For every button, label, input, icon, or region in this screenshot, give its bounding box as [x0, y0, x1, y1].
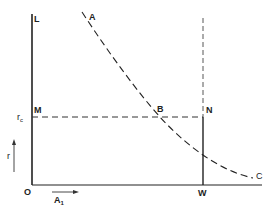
label-a1: A1 [54, 196, 64, 206]
label-m: M [34, 106, 42, 115]
label-l: L [34, 15, 40, 24]
label-c: C [256, 172, 263, 181]
label-n: N [206, 106, 213, 115]
label-rc: rc [17, 113, 23, 123]
label-w: W [198, 189, 207, 198]
label-b: B [157, 105, 164, 114]
label-a: A [89, 13, 96, 22]
label-a1-sub: 1 [61, 200, 64, 206]
label-rc-sub: c [20, 117, 23, 123]
arrow-a1-head-icon [73, 190, 79, 194]
label-r: r [7, 152, 10, 161]
arrow-r-head-icon [12, 139, 16, 145]
label-o: O [24, 188, 31, 197]
curve-abc [82, 12, 253, 178]
